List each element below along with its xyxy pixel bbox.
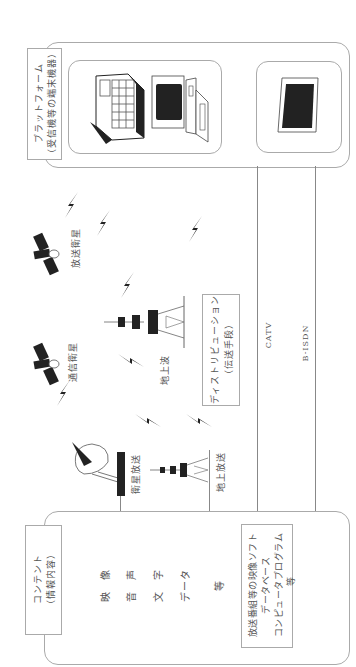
software-line-1: 放送番組等の映像ソフト <box>246 533 259 638</box>
broadcast-satellite-label: 放送衛星 <box>69 228 82 268</box>
terrestrial-tower-icon <box>104 294 194 350</box>
terrestrial-broadcast-line <box>209 450 210 512</box>
satellite-dish-icon <box>70 440 120 488</box>
satellite-broadcast-line <box>120 496 121 512</box>
platform-subtitle: （受信機等の端末機器） <box>45 48 58 158</box>
satellite-receiver-block <box>117 452 125 496</box>
catv-label: CATV <box>264 322 273 349</box>
lightning-icon <box>188 216 204 242</box>
contents-item-video: 映 像 <box>97 569 112 602</box>
desktop-pc-icon <box>150 72 212 144</box>
contents-container <box>44 511 350 665</box>
software-line-2: データベース <box>259 557 272 614</box>
software-line-4: 等 <box>284 576 297 586</box>
satellite-broadcast-label: 衛星放送 <box>129 454 142 494</box>
contents-item-etc: 等 <box>211 580 226 591</box>
contents-item-text: 文 字 <box>150 569 165 602</box>
catv-line <box>257 166 258 512</box>
lightning-icon <box>96 210 112 236</box>
contents-title: コンテント <box>31 554 44 604</box>
bisdn-line <box>315 166 316 512</box>
contents-subtitle: （情報内容） <box>44 549 57 609</box>
platform-title: プラットフォーム <box>32 63 45 143</box>
broadcast-satellite-icon <box>32 232 64 276</box>
distribution-title: ディストリビューション <box>208 295 221 404</box>
lightning-icon <box>118 352 144 368</box>
lightning-icon <box>135 412 161 428</box>
contents-item-audio: 音 声 <box>123 569 138 602</box>
contents-item-data: データ <box>177 569 192 602</box>
lightning-icon <box>64 192 80 218</box>
laptop-icon <box>88 70 148 145</box>
communication-satellite-icon <box>32 342 64 386</box>
bisdn-label: B-ISDN <box>301 325 310 362</box>
terrestrial-broadcast-tower-icon <box>150 450 212 490</box>
terrestrial-broadcast-label: 地上放送 <box>214 452 227 492</box>
communication-satellite-label: 通信衛星 <box>66 342 79 382</box>
distribution-subtitle: （伝送手段） <box>222 319 235 379</box>
television-icon <box>276 76 322 134</box>
lightning-icon <box>190 417 191 418</box>
lightning-icon <box>186 412 212 428</box>
terrestrial-wave-label: 地上波 <box>158 355 171 385</box>
